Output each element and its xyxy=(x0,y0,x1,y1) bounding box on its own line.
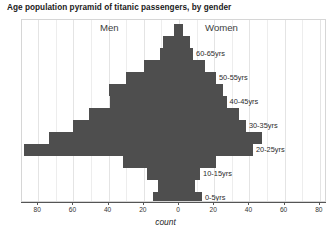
bar-category-label: 50-55yrs xyxy=(219,73,248,82)
plot-panel: 60-65yrs50-55yrs40-45yrs30-35yrs20-25yrs… xyxy=(21,19,326,202)
x-tick-mark xyxy=(213,202,214,205)
x-tick-label: 80 xyxy=(34,206,41,213)
group-label-women: Women xyxy=(205,22,238,33)
x-tick-mark xyxy=(37,202,38,205)
bar-row: 0-5yrs xyxy=(22,191,325,202)
bar-category-label: 60-65yrs xyxy=(196,49,225,58)
x-tick-mark xyxy=(284,202,285,205)
bar-category-label: 40-45yrs xyxy=(230,97,259,106)
x-tick-label: 80 xyxy=(315,206,322,213)
x-tick-mark xyxy=(178,202,179,205)
bar-category-label: 20-25yrs xyxy=(256,145,285,154)
bar-category-label: 10-15yrs xyxy=(203,169,232,178)
bar-category-label: 0-5yrs xyxy=(205,193,226,202)
bar-women xyxy=(179,192,202,202)
chart-title: Age population pyramid of titanic passen… xyxy=(7,3,231,12)
x-tick-mark xyxy=(319,202,320,205)
x-tick-label: 60 xyxy=(69,206,76,213)
group-label-men: Men xyxy=(100,22,119,33)
x-axis-line xyxy=(21,202,326,203)
x-tick-label: 60 xyxy=(280,206,287,213)
x-tick-label: 20 xyxy=(210,206,217,213)
x-tick-label: 40 xyxy=(245,206,252,213)
bar-men xyxy=(153,192,179,202)
x-tick-mark xyxy=(248,202,249,205)
x-tick-label: 40 xyxy=(104,206,111,213)
x-axis-title: count xyxy=(0,217,331,227)
x-tick-mark xyxy=(108,202,109,205)
x-tick-label: 0 xyxy=(176,206,180,213)
bar-category-label: 30-35yrs xyxy=(249,121,278,130)
population-pyramid-chart: Age population pyramid of titanic passen… xyxy=(0,0,331,236)
x-tick-mark xyxy=(143,202,144,205)
x-tick-label: 20 xyxy=(139,206,146,213)
x-tick-mark xyxy=(72,202,73,205)
